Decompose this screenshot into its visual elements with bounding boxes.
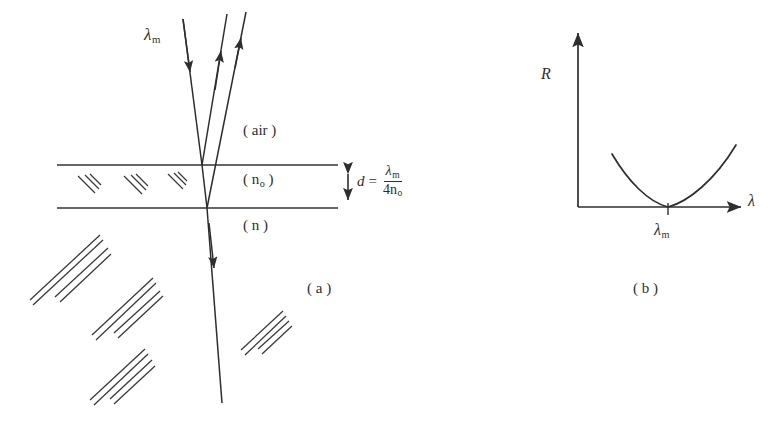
substrate-hatching — [30, 235, 292, 405]
thickness-formula: d = λm 4no — [357, 164, 404, 198]
thickness-fraction: λm 4no — [381, 164, 404, 198]
thickness-equals: = — [369, 174, 377, 189]
panel-caption-a: ( a ) — [307, 281, 331, 296]
medium-label-film: ( no ) — [243, 172, 274, 189]
thickness-numerator-symbol: λ — [386, 163, 392, 178]
thickness-symbol: d — [357, 174, 365, 189]
reflected-ray-surface — [202, 14, 227, 165]
medium-label-substrate: ( n ) — [243, 218, 268, 233]
figure-canvas: λm ( air ) ( no ) ( n ) d = λm 4no ( a )… — [0, 0, 778, 439]
thickness-denominator-symbol: 4n — [383, 182, 397, 197]
film-index-close: ) — [265, 171, 274, 187]
graph-minimum-subscript: m — [661, 229, 669, 240]
graph-axes — [578, 33, 741, 207]
thickness-denominator: 4no — [381, 182, 404, 199]
thickness-denominator-subscript: o — [397, 188, 402, 198]
refracted-ray-in-film — [202, 165, 207, 208]
reflected-ray-bottom — [207, 12, 246, 208]
film-index-open: ( n — [243, 171, 259, 187]
medium-label-air: ( air ) — [243, 123, 276, 138]
incident-wavelength-subscript: m — [151, 33, 160, 45]
film-interfaces — [57, 165, 338, 208]
graph-y-axis-label: R — [541, 66, 551, 82]
panel-caption-b: ( b ) — [633, 281, 658, 296]
incident-wavelength-label: λm — [144, 26, 160, 45]
thickness-numerator: λm — [384, 164, 402, 182]
incident-ray — [183, 19, 202, 165]
graph-minimum-label: λm — [654, 222, 669, 240]
figure-vector-layer — [0, 0, 778, 439]
reflectance-curve — [612, 145, 736, 207]
transmitted-ray-substrate — [207, 208, 222, 403]
thickness-numerator-subscript: m — [392, 170, 400, 180]
graph-x-axis-label: λ — [748, 193, 755, 209]
graph-minimum-symbol: λ — [654, 221, 661, 238]
film-hatching — [78, 172, 187, 194]
